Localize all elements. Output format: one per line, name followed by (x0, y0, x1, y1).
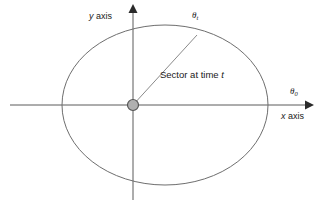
focus-point-icon (128, 100, 139, 111)
y-axis-arrowhead (129, 4, 138, 13)
y-axis-label-text: axis (94, 11, 113, 21)
theta-t-label: θt (192, 11, 198, 20)
x-axis-label: x axis (281, 112, 304, 121)
orbit-sector-figure: y axis x axis θt θ0 Sector at time t (0, 0, 323, 208)
sector-annotation-variable: t (221, 69, 224, 80)
y-axis-label: y axis (89, 12, 112, 21)
sector-annotation-text: Sector at time (160, 69, 221, 80)
theta-0-subscript: 0 (294, 90, 297, 97)
x-axis-label-text: axis (286, 111, 305, 121)
theta-t-subscript: t (196, 14, 198, 21)
figure-canvas (0, 0, 323, 208)
sector-annotation: Sector at time t (160, 70, 224, 80)
x-axis-arrowhead (305, 101, 314, 110)
theta-0-label: θ0 (290, 87, 298, 96)
